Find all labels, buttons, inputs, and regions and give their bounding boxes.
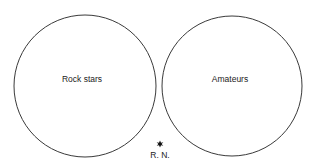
amateurs-label: Amateurs bbox=[212, 74, 248, 84]
marker-label: R. N. bbox=[150, 150, 169, 160]
amateurs-circle bbox=[162, 16, 302, 156]
set-amateurs: Amateurs bbox=[162, 16, 302, 156]
marker-rn: R. N. bbox=[150, 141, 169, 161]
set-rock-stars: Rock stars bbox=[14, 15, 156, 157]
rock-stars-circle bbox=[14, 15, 156, 157]
star-icon bbox=[157, 141, 164, 148]
venn-diagram: Rock stars Amateurs R. N. bbox=[0, 0, 322, 168]
rock-stars-label: Rock stars bbox=[62, 74, 102, 84]
